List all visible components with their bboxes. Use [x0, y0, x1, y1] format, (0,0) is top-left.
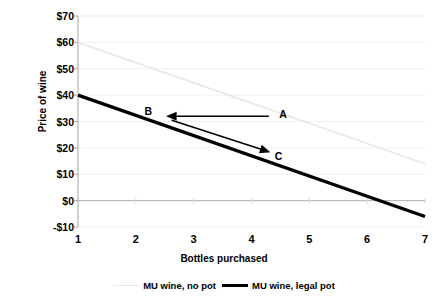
legend-item-no-pot: MU wine, no pot [113, 280, 216, 291]
x-tick-label: 5 [294, 233, 324, 245]
legend-label-legal-pot: MU wine, legal pot [252, 280, 335, 291]
legend-label-no-pot: MU wine, no pot [143, 280, 216, 291]
x-axis-title: Bottles purchased [0, 253, 448, 264]
x-tick-label: 3 [179, 233, 209, 245]
x-tick-label: 6 [352, 233, 382, 245]
price-of-wine-line-chart: Price of wine $70$60$50$40$30$20$10$0-$1… [0, 0, 448, 306]
x-tick-label: 2 [121, 233, 151, 245]
legend-item-legal-pot: MU wine, legal pot [216, 280, 335, 291]
x-tick-label: 4 [237, 233, 267, 245]
chart-legend: MU wine, no pot MU wine, legal pot [0, 280, 448, 291]
legend-swatch-legal-pot-icon [222, 284, 248, 287]
x-tick-label: 1 [63, 233, 93, 245]
x-tick-label: 7 [410, 233, 440, 245]
legend-swatch-no-pot-icon [113, 285, 139, 286]
